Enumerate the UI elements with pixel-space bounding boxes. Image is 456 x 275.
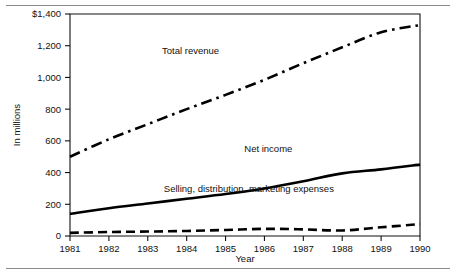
x-tick-label: 1984: [176, 243, 197, 254]
x-tick-label: 1983: [137, 243, 158, 254]
y-tick-label: 200: [45, 199, 61, 210]
y-axis-title: In millions: [11, 104, 22, 146]
y-tick-label: 1,000: [37, 72, 61, 83]
y-axis: $1,4001,2001,0008006004002000: [32, 8, 70, 241]
y-tick-label: 800: [45, 104, 61, 115]
series-line: [70, 25, 420, 157]
series-annotation-label: Total revenue: [162, 45, 219, 56]
chart-figure: $1,4001,2001,0008006004002000 1981198219…: [0, 0, 456, 275]
x-axis-title: Year: [235, 253, 254, 264]
x-tick-label: 1988: [332, 243, 353, 254]
x-tick-label: 1982: [98, 243, 119, 254]
y-tick-label: 600: [45, 135, 61, 146]
y-tick-label: 1,200: [37, 40, 61, 51]
x-axis: 1981198219831984198519861987198819891990: [59, 236, 430, 254]
x-tick-label: 1990: [409, 243, 430, 254]
x-tick-label: 1985: [215, 243, 236, 254]
x-tick-label: 1986: [254, 243, 275, 254]
series-annotation-label: Selling, distribution, marketing expense…: [164, 183, 334, 194]
line-chart-svg: $1,4001,2001,0008006004002000 1981198219…: [0, 0, 456, 275]
series-line: [70, 224, 420, 233]
y-tick-label: 0: [56, 230, 61, 241]
x-tick-label: 1981: [59, 243, 80, 254]
data-series-group: [70, 25, 420, 233]
series-annotations: Total revenueNet incomeSelling, distribu…: [162, 45, 334, 193]
y-tick-label: 400: [45, 167, 61, 178]
x-tick-label: 1989: [371, 243, 392, 254]
series-annotation-label: Net income: [244, 143, 292, 154]
plot-frame: [70, 14, 420, 236]
x-tick-label: 1987: [293, 243, 314, 254]
y-tick-label: $1,400: [32, 8, 61, 19]
